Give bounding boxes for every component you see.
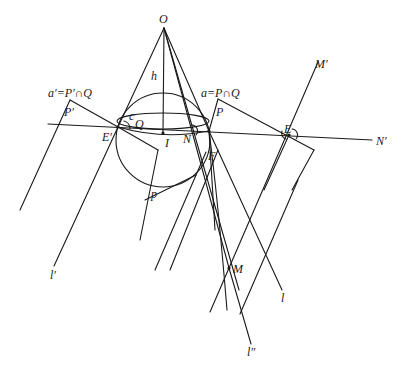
plane-P-prime-top-edge: [70, 100, 118, 127]
label-M: M: [232, 262, 244, 276]
cone: [118, 28, 239, 290]
point-I: [161, 131, 164, 134]
geometry-diagram: O h a′=P′∩Q P′ c Q E′ I N a=P∩Q P E M′ N…: [0, 0, 402, 374]
line-l: [209, 131, 282, 290]
label-P: P: [215, 105, 224, 119]
plane-P-right-edge: [292, 150, 314, 190]
label-a-prime-eq: a′=P′∩Q: [48, 86, 92, 100]
line-l-double-prime: [229, 268, 251, 344]
label-M-prime: M′: [314, 57, 328, 71]
point-M: [227, 266, 230, 269]
diagram-svg: O h a′=P′∩Q P′ c Q E′ I N a=P∩Q P E M′ N…: [0, 0, 402, 374]
label-N-prime: N′: [375, 134, 387, 148]
label-P-prime: P′: [63, 105, 74, 119]
parallel-line-3: [240, 180, 298, 314]
label-l: l: [281, 291, 285, 305]
plane-P-inner-edge: [264, 135, 289, 190]
cone-line-to-M-2: [164, 28, 239, 290]
point-P-tangent: [207, 129, 210, 132]
plane-P-top-edge: [218, 99, 314, 150]
label-l-prime: l′: [50, 268, 56, 282]
plane-P-prime-left-edge: [20, 100, 70, 210]
label-N: N: [182, 132, 192, 146]
parallel-line-2: [170, 150, 218, 270]
label-l-double-prime: l″: [247, 345, 256, 359]
label-a-eq: a=P∩Q: [201, 86, 240, 100]
plane-P: [209, 99, 314, 190]
parallel-line-1: [155, 152, 206, 270]
cone-right-edge: [164, 28, 209, 131]
label-F: F: [207, 149, 216, 163]
label-h: h: [151, 69, 157, 83]
line-l-prime: [54, 127, 118, 266]
label-E: E: [283, 122, 292, 136]
label-O: O: [159, 12, 168, 26]
label-E-prime: E′: [101, 130, 112, 144]
label-Q: Q: [135, 117, 144, 131]
angle-arc-E-right: [292, 129, 298, 139]
line-P-down: [209, 131, 215, 230]
label-I: I: [164, 136, 170, 150]
height-h: [163, 28, 164, 133]
label-p: p: [150, 187, 157, 201]
point-E-prime: [116, 125, 119, 128]
